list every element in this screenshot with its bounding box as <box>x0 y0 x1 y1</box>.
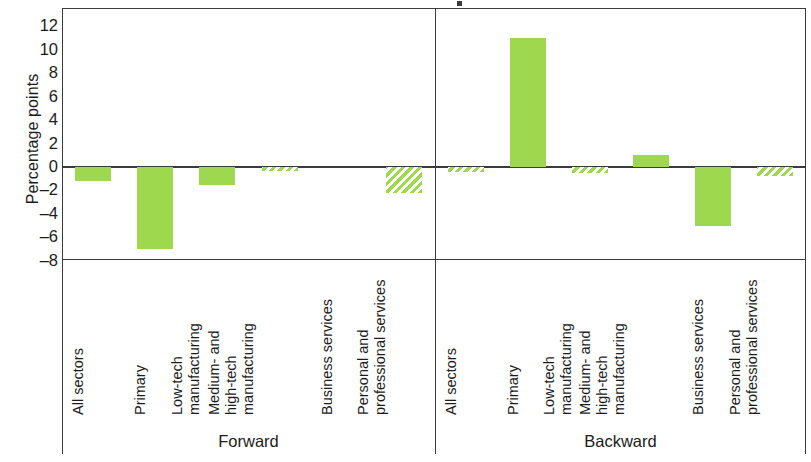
category-label-line: Low-tech <box>541 265 558 415</box>
category-label: Personal andprofessional services <box>727 265 761 415</box>
y-tick-label: –2 <box>20 181 58 198</box>
category-label-line: manufacturing <box>558 265 575 415</box>
bar <box>572 167 608 173</box>
category-label: Low-techmanufacturing <box>541 265 575 415</box>
category-label-line: high-tech <box>223 265 240 415</box>
group-label-forward: Forward <box>218 432 279 451</box>
y-tick-label: –6 <box>20 228 58 245</box>
category-label-line: high-tech <box>594 265 611 415</box>
category-label: Medium- andhigh-techmanufacturing <box>206 265 257 415</box>
category-label: Low-techmanufacturing <box>169 265 203 415</box>
y-tick-label: 12 <box>20 17 58 34</box>
bar <box>633 155 669 167</box>
category-label-line: Personal and <box>727 265 744 415</box>
category-label: Business services <box>690 265 707 415</box>
panel-divider-lower <box>435 259 436 454</box>
category-label: Business services <box>319 265 336 415</box>
category-label-line: Medium- and <box>577 265 594 415</box>
axis-bracket <box>62 259 63 454</box>
group-label-backward: Backward <box>584 432 656 451</box>
category-label: All sectors <box>70 265 87 415</box>
title-fragment <box>457 1 462 6</box>
category-label: Personal andprofessional services <box>355 265 389 415</box>
bar <box>510 38 546 167</box>
category-label-line: manufacturing <box>240 265 257 415</box>
panel-divider <box>435 8 436 260</box>
category-label: All sectors <box>443 265 460 415</box>
category-label-line: Business services <box>690 265 707 415</box>
y-tick-label: 4 <box>20 111 58 128</box>
y-tick-label: 0 <box>20 158 58 175</box>
category-label-line: Primary <box>505 265 522 415</box>
y-tick-label: 8 <box>20 64 58 81</box>
bar <box>386 167 422 193</box>
category-label-line: Low-tech <box>169 265 186 415</box>
category-label-line: Business services <box>319 265 336 415</box>
category-label-line: Medium- and <box>206 265 223 415</box>
y-axis-tick-labels: 121086420–2–4–6–8 <box>12 0 58 462</box>
category-label-line: professional services <box>744 265 761 415</box>
chart-figure: Percentage points 121086420–2–4–6–8 All … <box>0 0 811 462</box>
category-label-line: Primary <box>132 265 149 415</box>
bar <box>75 167 111 181</box>
category-label-line: professional services <box>372 265 389 415</box>
category-label: Primary <box>505 265 522 415</box>
bar <box>757 167 793 176</box>
y-tick-label: –8 <box>20 252 58 269</box>
bar <box>199 167 235 185</box>
category-label-line: All sectors <box>443 265 460 415</box>
y-tick-label: 6 <box>20 88 58 105</box>
category-label-line: manufacturing <box>186 265 203 415</box>
bar <box>695 167 731 226</box>
y-tick-label: 2 <box>20 135 58 152</box>
axis-bracket <box>805 259 806 454</box>
category-label-line: Personal and <box>355 265 372 415</box>
category-label: Medium- andhigh-techmanufacturing <box>577 265 628 415</box>
bar <box>137 167 173 249</box>
y-tick-label: –4 <box>20 205 58 222</box>
bar <box>262 167 298 171</box>
x-axis-baseline <box>62 259 806 260</box>
category-label-line: manufacturing <box>611 265 628 415</box>
bar <box>448 167 484 172</box>
category-label: Primary <box>132 265 149 415</box>
category-label-line: All sectors <box>70 265 87 415</box>
y-tick-label: 10 <box>20 41 58 58</box>
